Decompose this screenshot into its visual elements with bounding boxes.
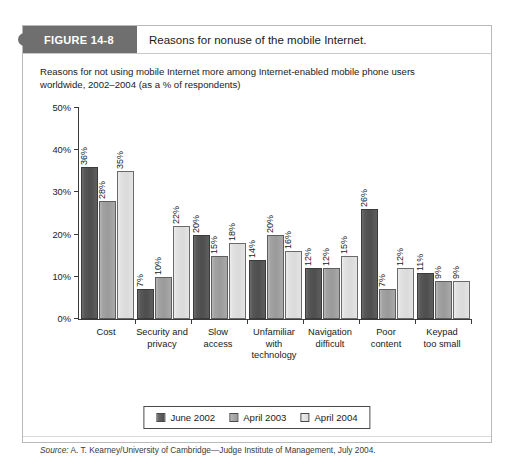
bar-value-label: 35% [116, 151, 125, 169]
bar-value-label: 7% [378, 274, 387, 287]
y-axis-label: 50% [52, 103, 71, 113]
x-axis-category-label-line: technology [247, 350, 301, 362]
bar-value-label: 36% [80, 147, 89, 165]
x-axis-category-labels: CostSecurity andprivacySlowaccessUnfamil… [78, 327, 470, 362]
bar-value-label: 15% [210, 236, 219, 254]
bar-value-label: 10% [154, 257, 163, 275]
x-axis-category-label-line: content [359, 339, 413, 351]
bar[interactable]: 36% [81, 167, 98, 319]
bar[interactable]: 20% [193, 235, 210, 319]
bar[interactable]: 18% [229, 243, 246, 319]
x-axis-tick [247, 319, 248, 324]
x-axis-tick [303, 319, 304, 324]
bar[interactable]: 15% [341, 256, 358, 319]
figure-frame: FIGURE 14-8 Reasons for nonuse of the mo… [22, 25, 492, 443]
bar-group: 36%28%35% [79, 108, 135, 319]
x-axis-category-label: Poorcontent [358, 327, 414, 362]
bar[interactable]: 16% [285, 251, 302, 319]
y-axis-tick [74, 149, 79, 150]
legend-label: April 2004 [314, 412, 357, 423]
bar-value-label: 14% [248, 240, 257, 258]
legend-swatch-icon [229, 413, 238, 422]
bar-value-label: 20% [266, 215, 275, 233]
source-note: Source: A. T. Kearney/University of Camb… [40, 445, 376, 455]
chart-plot-region: 36%28%35%7%10%22%20%15%18%14%20%16%12%12… [40, 99, 476, 354]
x-axis-category-label: Slowaccess [190, 327, 246, 362]
y-axis-label: 40% [52, 145, 71, 155]
y-axis-label: 10% [52, 272, 71, 282]
x-axis-category-label-line: Poor [359, 327, 413, 339]
source-divider [23, 436, 491, 437]
x-axis-tick [359, 319, 360, 324]
chart-subtitle-line-1: Reasons for not using mobile Internet mo… [40, 66, 465, 79]
figure-number-tab: FIGURE 14-8 [23, 26, 137, 53]
x-axis-category-label-line: privacy [135, 339, 189, 351]
figure-body: Reasons for not using mobile Internet mo… [23, 54, 491, 442]
bar-value-label: 26% [360, 189, 369, 207]
bar[interactable]: 26% [361, 209, 378, 319]
bar-value-label: 28% [98, 181, 107, 199]
legend-item[interactable]: April 2004 [300, 412, 357, 423]
x-axis-category-label-line: access [191, 339, 245, 351]
chart-legend: June 2002April 2003April 2004 [143, 406, 370, 429]
bar-group: 7%10%22% [135, 108, 191, 319]
bar[interactable]: 11% [417, 273, 434, 319]
x-axis-category-label-line: Cost [79, 327, 133, 339]
x-axis-tick [471, 319, 472, 324]
x-axis-category-label-line: with [247, 339, 301, 351]
figure-number-label: FIGURE 14-8 [44, 34, 114, 46]
x-axis-category-label-line: difficult [303, 339, 357, 351]
legend-swatch-icon [300, 413, 309, 422]
bar[interactable]: 35% [117, 171, 134, 319]
figure-bullet-icon [18, 33, 31, 46]
bar[interactable]: 12% [323, 268, 340, 319]
figure-header: FIGURE 14-8 Reasons for nonuse of the mo… [23, 26, 491, 54]
bar-value-label: 7% [136, 274, 145, 287]
bar[interactable]: 22% [173, 226, 190, 319]
bar-series-container: 36%28%35%7%10%22%20%15%18%14%20%16%12%12… [79, 108, 471, 319]
bar-value-label: 12% [396, 248, 405, 266]
bar[interactable]: 20% [267, 235, 284, 319]
x-axis-category-label: Security andprivacy [134, 327, 190, 362]
y-axis-tick [74, 107, 79, 108]
legend-label: June 2002 [170, 412, 215, 423]
bar[interactable]: 9% [453, 281, 470, 319]
bar[interactable]: 7% [379, 289, 396, 319]
figure-caption: Reasons for nonuse of the mobile Interne… [149, 26, 366, 53]
y-axis-tick [74, 318, 79, 319]
bar-value-label: 16% [284, 231, 293, 249]
y-axis-tick [74, 191, 79, 192]
legend-item[interactable]: June 2002 [156, 412, 215, 423]
bar-group: 20%15%18% [191, 108, 247, 319]
bar-value-label: 9% [452, 266, 461, 279]
bar-value-label: 18% [228, 223, 237, 241]
chart-subtitle-line-2: worldwide, 2002–2004 (as a % of responde… [40, 79, 465, 92]
bar-value-label: 20% [192, 215, 201, 233]
bar[interactable]: 9% [435, 281, 452, 319]
x-axis-tick [135, 319, 136, 324]
bar[interactable]: 7% [137, 289, 154, 319]
bar[interactable]: 10% [155, 277, 172, 319]
bar-value-label: 12% [304, 248, 313, 266]
y-axis-tick [74, 234, 79, 235]
chart-subtitle: Reasons for not using mobile Internet mo… [40, 66, 465, 91]
source-text: A. T. Kearney/University of Cambridge—Ju… [69, 445, 376, 455]
bar[interactable]: 28% [99, 201, 116, 319]
bar[interactable]: 12% [397, 268, 414, 319]
x-axis-category-label: Cost [78, 327, 134, 362]
y-axis-label: 20% [52, 230, 71, 240]
y-axis-label: 0% [58, 314, 71, 324]
bar-value-label: 15% [340, 236, 349, 254]
legend-item[interactable]: April 2003 [229, 412, 286, 423]
bar[interactable]: 14% [249, 260, 266, 319]
bar-group: 11%9%9% [415, 108, 471, 319]
x-axis-category-label: Keypadtoo small [414, 327, 470, 362]
bar[interactable]: 15% [211, 256, 228, 319]
x-axis-category-label-line: Slow [191, 327, 245, 339]
x-axis-category-label-line: Keypad [415, 327, 469, 339]
bar-group: 26%7%12% [359, 108, 415, 319]
legend-label: April 2003 [243, 412, 286, 423]
bar[interactable]: 12% [305, 268, 322, 319]
chart-axes: 36%28%35%7%10%22%20%15%18%14%20%16%12%12… [78, 108, 471, 320]
x-axis-category-label-line: too small [415, 339, 469, 351]
